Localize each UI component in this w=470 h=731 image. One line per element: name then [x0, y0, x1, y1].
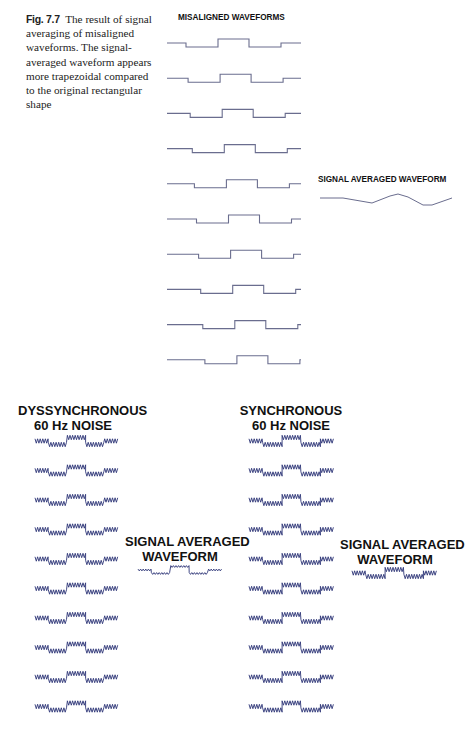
top-averaged-waveform: [320, 194, 452, 205]
noisy-waveform: [35, 435, 118, 446]
noisy-waveform: [249, 701, 333, 712]
misaligned-waveform: [167, 215, 301, 223]
misaligned-waveform: [167, 74, 301, 82]
misaligned-waveform: [167, 39, 301, 47]
misaligned-waveforms: [167, 39, 301, 364]
noisy-waveform: [249, 642, 333, 653]
noisy-waveform: [35, 583, 118, 594]
synchronous-waveforms: [249, 435, 333, 712]
noisy-waveform: [138, 566, 222, 575]
noisy-waveform: [35, 642, 118, 653]
dyssynchronous-waveforms: [35, 435, 118, 712]
noisy-waveform: [249, 671, 333, 682]
noisy-waveform: [249, 465, 333, 476]
noisy-waveform: [249, 494, 333, 505]
misaligned-waveform: [167, 356, 301, 364]
noisy-waveform: [249, 435, 333, 446]
noisy-waveform: [35, 612, 118, 623]
noisy-waveform: [352, 567, 436, 578]
noisy-waveform: [35, 465, 118, 476]
misaligned-waveform: [167, 180, 301, 188]
noisy-waveform: [249, 612, 333, 623]
noisy-waveform: [35, 701, 118, 712]
noisy-waveform: [249, 524, 333, 535]
misaligned-waveform: [167, 145, 301, 153]
noisy-waveform: [35, 671, 118, 682]
waveform-diagram: [0, 0, 470, 731]
noisy-waveform: [249, 553, 333, 564]
noisy-waveform: [249, 583, 333, 594]
misaligned-waveform: [167, 321, 301, 329]
noisy-waveform: [35, 494, 118, 505]
misaligned-waveform: [167, 250, 301, 258]
dyssynchronous-averaged-waveform: [138, 566, 222, 575]
noisy-waveform: [35, 553, 118, 564]
synchronous-averaged-waveform: [352, 567, 436, 578]
noisy-waveform: [35, 524, 118, 535]
misaligned-waveform: [167, 109, 301, 117]
misaligned-waveform: [167, 285, 301, 293]
